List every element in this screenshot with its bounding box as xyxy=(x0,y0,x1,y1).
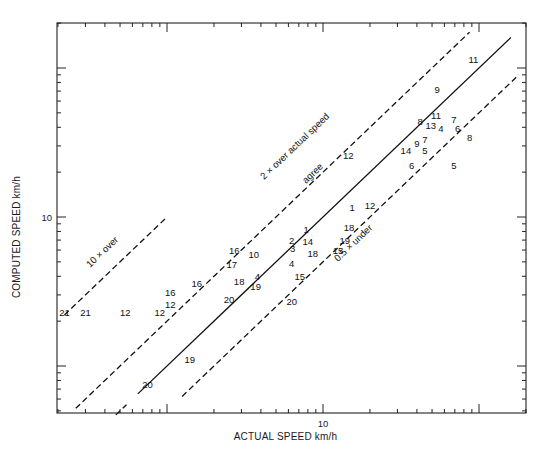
data-point-label: 6 xyxy=(455,123,460,134)
data-point-label: 11 xyxy=(468,54,478,65)
data-point-label: 20 xyxy=(224,294,235,305)
data-point-label: 5 xyxy=(451,160,456,171)
y-axis-title: COMPUTED SPEED km/h xyxy=(6,0,26,452)
data-point-label: 16 xyxy=(165,287,176,298)
reference-line-0-5x-under xyxy=(182,75,519,397)
data-point-label: 4 xyxy=(438,123,443,134)
x-axis-title: ACTUAL SPEED km/h xyxy=(0,431,545,442)
plot-border xyxy=(57,23,526,413)
data-point-label: 12 xyxy=(165,299,176,310)
data-point-label: 4 xyxy=(255,271,260,282)
data-point-label: 7 xyxy=(422,134,427,145)
data-point-label: 19 xyxy=(250,281,261,292)
y-tick-label: 10 xyxy=(41,212,52,223)
data-point-label: 20 xyxy=(286,296,297,307)
data-point-label: 21 xyxy=(80,307,91,318)
data-point-label: 14 xyxy=(401,145,412,156)
data-point-label: 9 xyxy=(414,138,419,149)
data-point-label: 16 xyxy=(229,245,240,256)
data-point-label: 17 xyxy=(226,259,237,270)
data-point-label: 8 xyxy=(418,116,423,127)
data-point-label: 1 xyxy=(304,224,309,235)
data-point-label: 15 xyxy=(295,271,306,282)
data-point-label: 12 xyxy=(365,200,376,211)
data-point-label: 18 xyxy=(234,276,245,287)
data-point-label: 4 xyxy=(289,258,294,269)
data-point-label: 1 xyxy=(350,202,355,213)
data-point-label: 3 xyxy=(290,243,295,254)
reference-line-2x-over-actual-speed xyxy=(76,32,470,408)
reference-line-10x-over xyxy=(64,217,167,315)
reference-line-label: 10 × over xyxy=(84,234,120,269)
data-point-label: 18 xyxy=(307,248,318,259)
data-point-labels: 2121121212161620201917161018419204152311… xyxy=(59,54,478,390)
y-axis-label: COMPUTED SPEED km/h xyxy=(11,176,22,298)
data-point-label: 13 xyxy=(425,120,436,131)
data-point-label: 9 xyxy=(435,84,440,95)
data-point-label: 16 xyxy=(191,278,202,289)
data-point-label: 8 xyxy=(467,132,472,143)
data-point-label: 12 xyxy=(343,150,354,161)
data-point-label: 18 xyxy=(344,222,355,233)
data-point-label: 15 xyxy=(333,245,344,256)
data-point-label: 14 xyxy=(303,236,314,247)
data-point-label: 12 xyxy=(155,307,166,318)
data-point-label: 19 xyxy=(185,354,196,365)
chart-plot: 10 × over2 × over actual speedagree0.5 ×… xyxy=(0,0,545,452)
data-point-label: 11 xyxy=(431,110,441,121)
data-point-label: 21 xyxy=(59,307,70,318)
data-point-label: 5 xyxy=(422,145,427,156)
reference-line-agree xyxy=(138,38,511,394)
x-axis-label: ACTUAL SPEED km/h xyxy=(234,431,338,442)
data-point-label: 19 xyxy=(340,235,351,246)
data-point-label: 6 xyxy=(409,160,414,171)
reference-lines xyxy=(64,32,518,415)
x-tick-label: 10 xyxy=(318,418,329,429)
data-point-label: 10 xyxy=(248,249,259,260)
plot-frame xyxy=(57,23,526,413)
data-point-label: 12 xyxy=(120,307,131,318)
tick-labels: 1010 xyxy=(41,212,328,430)
data-point-label: 20 xyxy=(142,379,153,390)
